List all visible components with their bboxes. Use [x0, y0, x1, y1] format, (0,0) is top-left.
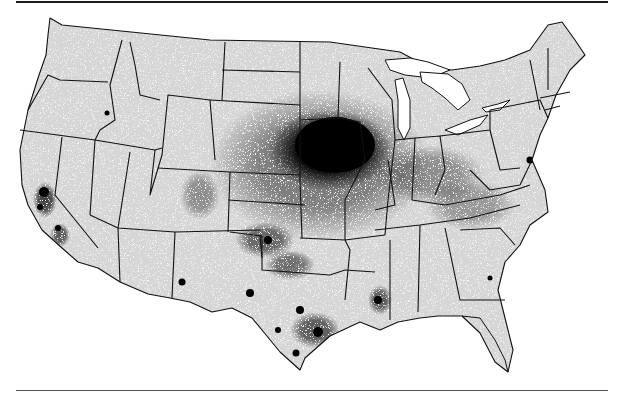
city-dot [488, 276, 493, 281]
us-dot-density-map [0, 0, 619, 395]
city-dot [105, 111, 110, 116]
city-dot [296, 306, 304, 314]
city-dot [293, 350, 300, 357]
city-dot [179, 279, 186, 286]
hotspot [180, 170, 220, 220]
city-dot [246, 289, 254, 297]
city-dot [275, 327, 281, 333]
city-dot [37, 204, 43, 210]
city-dot [55, 225, 61, 231]
city-dot [39, 187, 49, 197]
hotspot [265, 250, 315, 280]
city-dot [374, 296, 382, 304]
city-dot [313, 327, 323, 337]
population-dots [0, 0, 619, 395]
bottom-rule [16, 390, 608, 391]
city-dot [264, 236, 272, 244]
